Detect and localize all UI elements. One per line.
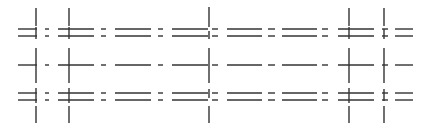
line-pattern-diagram bbox=[0, 0, 428, 132]
diagram-canvas bbox=[0, 0, 428, 132]
horizontal-lines bbox=[18, 29, 413, 100]
